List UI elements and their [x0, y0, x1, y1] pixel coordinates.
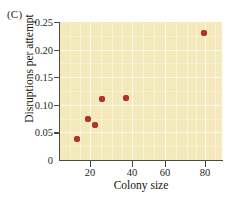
gridline-horizontal [60, 77, 222, 78]
gridline-horizontal [60, 105, 222, 106]
x-axis-line [59, 160, 223, 161]
y-axis-tick-label: 0 [48, 155, 53, 166]
gridline-vertical [205, 22, 206, 160]
y-axis-tick-label: 0.25 [35, 17, 53, 28]
y-axis-tick-label: 0.10 [35, 100, 53, 111]
gridline-horizontal [60, 50, 222, 51]
x-axis-tick-label: 80 [200, 167, 211, 178]
x-axis-tick-label: 20 [85, 167, 96, 178]
gridline-horizontal-minor [60, 91, 222, 92]
gridline-vertical-minor [80, 22, 81, 160]
gridline-vertical-minor [143, 22, 144, 160]
gridline-vertical-minor [176, 22, 177, 160]
data-point [99, 96, 105, 102]
data-point [123, 95, 129, 101]
gridline-horizontal-minor [60, 63, 222, 64]
plot-area [60, 22, 222, 160]
data-point [92, 122, 98, 128]
gridline-vertical [165, 22, 166, 160]
gridline-horizontal-minor [60, 36, 222, 37]
data-point [85, 116, 91, 122]
x-axis-tick-label: 40 [127, 167, 138, 178]
y-axis-tick [54, 132, 60, 133]
gridline-horizontal-minor [60, 146, 222, 147]
y-axis-tick-label: 0.05 [35, 127, 53, 138]
gridline-horizontal [60, 132, 222, 133]
gridline-vertical-minor [154, 22, 155, 160]
gridline-vertical-minor [196, 22, 197, 160]
gridline-vertical-minor [70, 22, 71, 160]
y-axis-tick [54, 77, 60, 78]
gridline-vertical-minor [215, 22, 216, 160]
gridline-vertical-minor [112, 22, 113, 160]
gridline-vertical [90, 22, 91, 160]
y-axis-line [59, 22, 60, 161]
panel-label: (C) [7, 8, 22, 20]
gridline-vertical-minor [122, 22, 123, 160]
y-axis-tick-label: 0.20 [35, 45, 53, 56]
gridline-vertical-minor [101, 22, 102, 160]
y-axis-title: Disruptions per attempt [23, 0, 36, 144]
x-axis-tick-label: 60 [160, 167, 171, 178]
y-axis-tick-label: 0.15 [35, 72, 53, 83]
data-point [74, 136, 80, 142]
gridline-vertical-minor [187, 22, 188, 160]
scatter-plot-figure: (C) 0.25 0.20 0.15 [0, 0, 233, 199]
y-axis-tick [54, 50, 60, 51]
y-axis-tick [54, 22, 60, 23]
y-axis-tick [54, 105, 60, 106]
x-axis-title: Colony size [60, 179, 222, 192]
gridline-vertical [132, 22, 133, 160]
data-point [201, 30, 207, 36]
